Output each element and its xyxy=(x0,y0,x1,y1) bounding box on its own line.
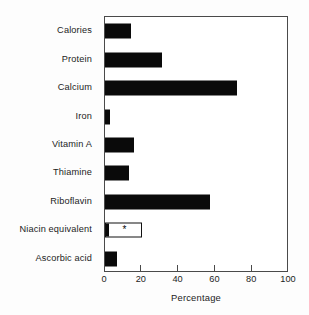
x-axis-title: Percentage xyxy=(104,292,288,303)
category-label: Calories xyxy=(57,25,92,35)
x-axis-tick-label: 20 xyxy=(136,274,146,284)
x-axis-tick xyxy=(140,265,141,272)
category-label: Protein xyxy=(62,54,92,64)
bar xyxy=(105,138,134,153)
bar-series: * xyxy=(105,17,287,271)
bar-stub xyxy=(106,224,109,237)
bar xyxy=(105,52,162,67)
x-axis-tick xyxy=(214,265,215,272)
category-label: Calcium xyxy=(58,82,92,92)
bar xyxy=(105,109,110,124)
category-label-column: CaloriesProteinCalciumIronVitamin AThiam… xyxy=(0,16,96,272)
bar xyxy=(105,251,117,266)
category-label: Riboflavin xyxy=(50,196,92,206)
x-axis-tick xyxy=(251,265,252,272)
category-label: Niacin equivalent xyxy=(19,224,92,234)
x-axis-tick-label: 40 xyxy=(172,274,182,284)
bar xyxy=(105,24,131,39)
x-axis-tick xyxy=(104,265,105,272)
plot-area: * xyxy=(104,16,288,272)
bar xyxy=(105,166,129,181)
bar: * xyxy=(105,223,142,238)
x-axis-tick xyxy=(287,265,288,272)
category-label: Ascorbic acid xyxy=(35,253,92,263)
x-axis-tick xyxy=(177,265,178,272)
x-axis-tick-label: 100 xyxy=(280,274,295,284)
bar xyxy=(105,81,237,96)
x-axis-tick-label: 80 xyxy=(246,274,256,284)
category-label: Vitamin A xyxy=(52,139,92,149)
asterisk-marker: * xyxy=(122,225,126,235)
chart-figure: CaloriesProteinCalciumIronVitamin AThiam… xyxy=(0,0,309,315)
x-axis-tick-label: 60 xyxy=(209,274,219,284)
category-label: Thiamine xyxy=(53,167,92,177)
x-axis-tick-label: 0 xyxy=(101,274,106,284)
bar xyxy=(105,194,210,209)
category-label: Iron xyxy=(76,111,92,121)
